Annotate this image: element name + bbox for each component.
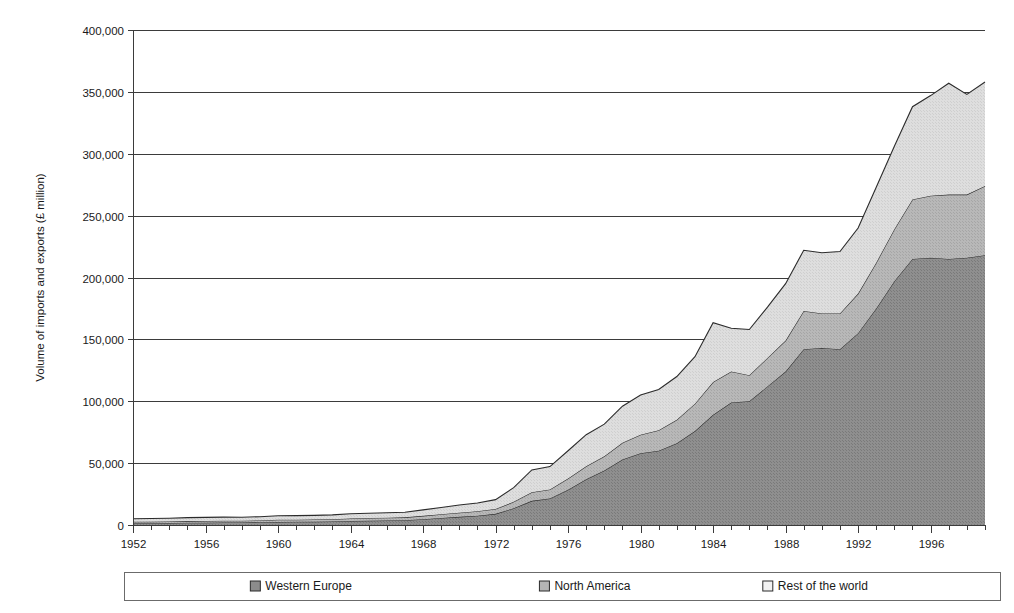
y-tick-label: 250,000 [82, 211, 124, 223]
x-tick-label: 1988 [774, 538, 800, 550]
x-tick-label: 1960 [266, 538, 292, 550]
x-tick-label: 1976 [556, 538, 582, 550]
y-tick-label: 0 [118, 520, 124, 532]
legend-swatch-2 [539, 581, 549, 591]
legend-swatch-1 [250, 581, 260, 591]
y-tick-label: 300,000 [82, 149, 124, 161]
x-tick-label: 1968 [411, 538, 437, 550]
y-tick-label: 100,000 [82, 396, 124, 408]
legend-label-2: North America [554, 579, 630, 593]
x-tick-label: 1956 [194, 538, 220, 550]
y-tick-label: 50,000 [89, 458, 124, 470]
x-tick-label: 1980 [629, 538, 655, 550]
x-tick-label: 1952 [121, 538, 147, 550]
chart-canvas: 050,000100,000150,000200,000250,000300,0… [0, 0, 1014, 613]
x-tick-label: 1996 [919, 538, 945, 550]
x-tick-label: 1984 [701, 538, 727, 550]
area-series-layer [133, 82, 985, 525]
y-axis-title: Volume of imports and exports (£ million… [34, 173, 46, 382]
y-tick-label: 150,000 [82, 334, 124, 346]
legend-label-1: Western Europe [265, 579, 352, 593]
y-tick-label: 200,000 [82, 273, 124, 285]
x-tick-label: 1972 [484, 538, 510, 550]
legend-swatch-3 [763, 581, 773, 591]
y-axis-title-text: Volume of imports and exports (£ million… [34, 173, 46, 382]
legend-item-3[interactable]: Rest of the world [763, 579, 868, 593]
y-tick-label: 400,000 [82, 25, 124, 37]
legend-item-1[interactable]: Western Europe [250, 579, 352, 593]
x-tick-label: 1992 [846, 538, 872, 550]
y-tick-label: 350,000 [82, 87, 124, 99]
legend-label-3: Rest of the world [778, 579, 868, 593]
stacked-area-chart: 050,000100,000150,000200,000250,000300,0… [0, 0, 1014, 613]
x-tick-label: 1964 [339, 538, 365, 550]
chart-legend: Western EuropeNorth AmericaRest of the w… [125, 573, 1001, 601]
